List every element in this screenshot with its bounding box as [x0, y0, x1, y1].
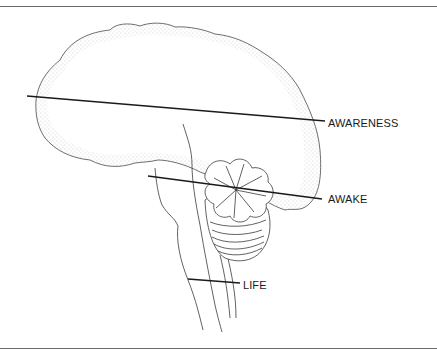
life-label: LIFE	[243, 279, 267, 291]
cerebellum	[205, 159, 273, 261]
awake-label: AWAKE	[328, 193, 367, 205]
awareness-label: AWARENESS	[328, 117, 398, 129]
brain-diagram	[0, 0, 437, 355]
